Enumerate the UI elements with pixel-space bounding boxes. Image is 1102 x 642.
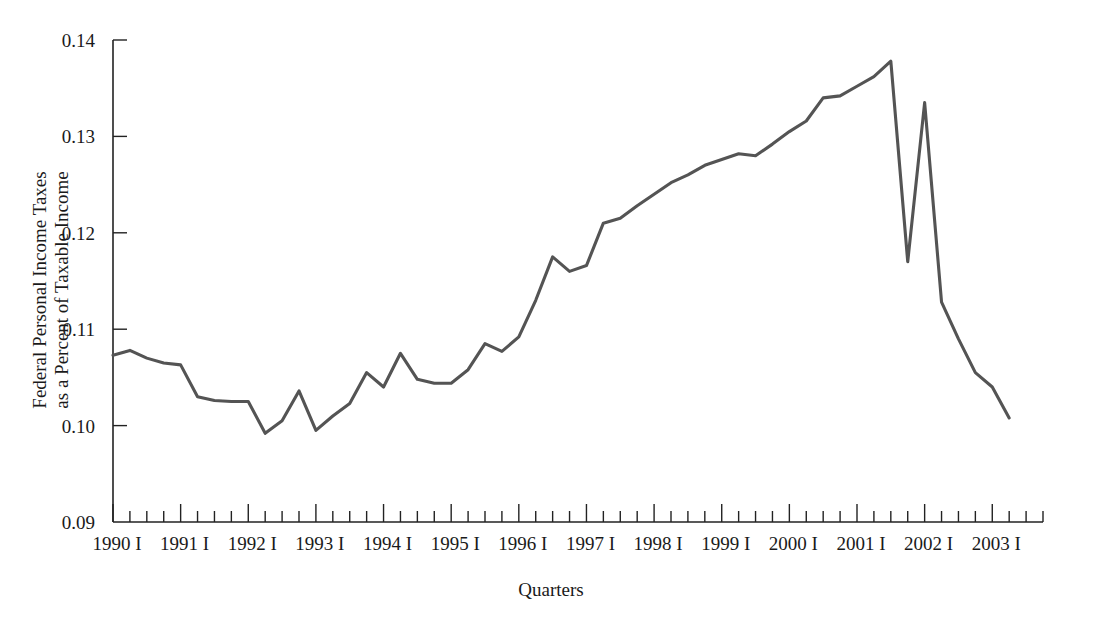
- y-tick-label: 0.13: [62, 126, 95, 147]
- x-tick-label: 1996 I: [498, 533, 547, 554]
- y-axis-tick-marks: [113, 40, 127, 426]
- y-tick-label: 0.14: [62, 30, 96, 51]
- y-tick-label: 0.11: [62, 319, 95, 340]
- y-axis-title: Federal Personal Income Taxes as a Perce…: [29, 171, 72, 408]
- x-tick-label: 1999 I: [701, 533, 750, 554]
- line-chart: Federal Personal Income Taxes as a Perce…: [0, 0, 1102, 642]
- data-series-line: [113, 61, 1009, 433]
- y-tick-label: 0.12: [62, 223, 95, 244]
- x-tick-label: 1994 I: [363, 533, 412, 554]
- y-tick-label: 0.10: [62, 416, 95, 437]
- x-tick-label: 1995 I: [431, 533, 480, 554]
- chart-figure: Federal Personal Income Taxes as a Perce…: [0, 0, 1102, 642]
- y-tick-label: 0.09: [62, 512, 95, 533]
- x-axis-tick-labels: 1990 I1991 I1992 I1993 I1994 I1995 I1996…: [92, 533, 1020, 554]
- x-tick-label: 1992 I: [228, 533, 277, 554]
- x-tick-label: 2001 I: [836, 533, 885, 554]
- x-tick-label: 1990 I: [92, 533, 141, 554]
- x-tick-label: 1998 I: [634, 533, 683, 554]
- y-axis-title-line1: Federal Personal Income Taxes: [29, 171, 50, 408]
- x-tick-label: 2002 I: [904, 533, 953, 554]
- x-tick-label: 1997 I: [566, 533, 615, 554]
- x-tick-label: 2000 I: [769, 533, 818, 554]
- x-axis-title: Quarters: [518, 579, 583, 600]
- y-axis-title-line2: as a Percent of Taxable Income: [51, 171, 72, 408]
- x-tick-label: 1993 I: [295, 533, 344, 554]
- x-tick-label: 2003 I: [972, 533, 1021, 554]
- x-axis-tick-marks: [113, 504, 1043, 522]
- x-tick-label: 1991 I: [160, 533, 209, 554]
